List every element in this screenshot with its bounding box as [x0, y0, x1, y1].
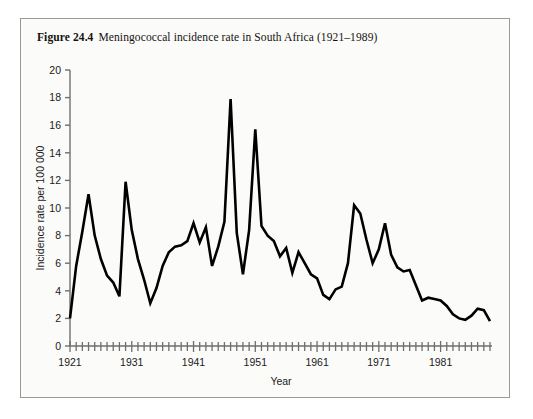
figure-number: Figure 24.4: [37, 31, 93, 43]
figure-caption: Figure 24.4Meningococcal incidence rate …: [37, 31, 377, 43]
figure-caption-text: Meningococcal incidence rate in South Af…: [98, 31, 377, 43]
figure-frame: Figure 24.4Meningococcal incidence rate …: [20, 18, 510, 398]
